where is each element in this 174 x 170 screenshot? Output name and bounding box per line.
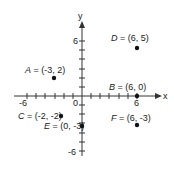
- point-f: [135, 123, 139, 127]
- point-d-label: D = (6, 5): [111, 33, 149, 43]
- x-axis-label: x: [163, 91, 168, 101]
- x-tick-neg6: -6: [19, 98, 27, 108]
- y-axis-label: y: [78, 11, 83, 21]
- point-a-label: A = (-3, 2): [24, 65, 65, 75]
- origin-label: 0: [73, 98, 78, 108]
- point-f-label: F = (6, -3): [111, 113, 151, 123]
- x-axis-arrow-icon: [155, 93, 162, 99]
- x-tick-pos6: 6: [134, 98, 139, 108]
- point-d: [135, 46, 139, 50]
- point-b: [135, 94, 139, 98]
- y-tick-neg6: -6: [68, 147, 76, 157]
- y-axis-arrow-icon: [79, 21, 85, 28]
- point-e-label: E = (0, -3): [44, 121, 84, 131]
- coordinate-plane: y x -6 6 6 -6 0 A = (-3, 2) B = (6, 0) C…: [0, 0, 174, 170]
- point-b-label: B = (6, 0): [109, 82, 146, 92]
- point-a: [52, 76, 56, 80]
- point-c-label: C = (-2, -2): [18, 111, 62, 121]
- y-tick-pos6: 6: [73, 36, 78, 46]
